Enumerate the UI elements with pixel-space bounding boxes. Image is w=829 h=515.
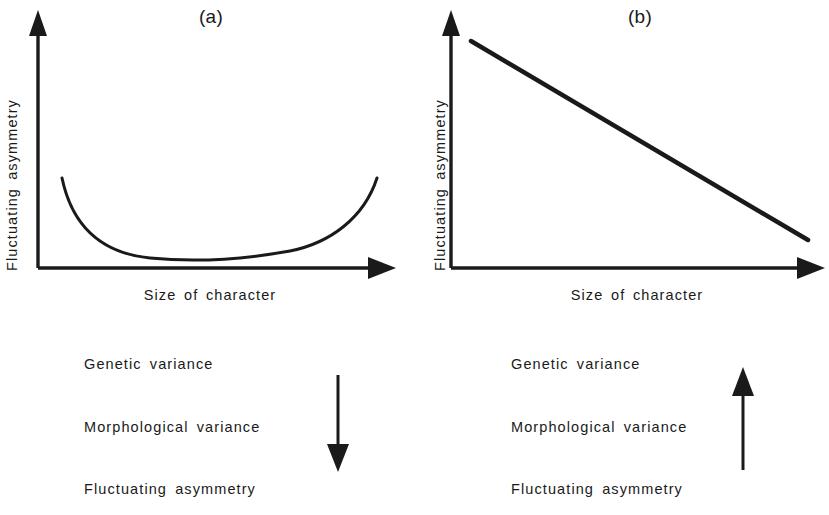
arrow-up-icon [713,340,773,515]
panel-b: (b) Size of character Fluctuating asymme… [415,0,829,515]
panel-a-y-axis-label: Fluctuating asymmetry [4,99,20,271]
flow-item-genetic-variance: Genetic variance [511,356,640,372]
panel-b-flow-diagram: Genetic variance Morphological variance … [415,340,829,515]
flow-item-genetic-variance: Genetic variance [84,356,213,372]
flow-item-morphological-variance: Morphological variance [511,419,687,435]
panel-b-y-axis-label: Fluctuating asymmetry [432,99,448,271]
panel-b-x-axis-label: Size of character [487,287,787,303]
arrow-down-icon [308,340,368,515]
figure-two-panel-fluctuating-asymmetry: (a) Size of character Fluctuating asymme… [0,0,829,515]
panel-a-flow-diagram: Genetic variance Morphological variance … [0,340,414,515]
x-axis-b [451,257,825,279]
data-curve-a [62,178,377,260]
flow-item-fluctuating-asymmetry: Fluctuating asymmetry [511,481,683,497]
flow-item-fluctuating-asymmetry: Fluctuating asymmetry [84,481,256,497]
panel-b-plot [415,0,829,300]
data-line-b [471,41,808,240]
panel-a-x-axis-label: Size of character [60,287,360,303]
panel-a-plot [0,0,414,300]
y-axis-a [29,10,47,268]
panel-a: (a) Size of character Fluctuating asymme… [0,0,414,515]
flow-item-morphological-variance: Morphological variance [84,419,260,435]
